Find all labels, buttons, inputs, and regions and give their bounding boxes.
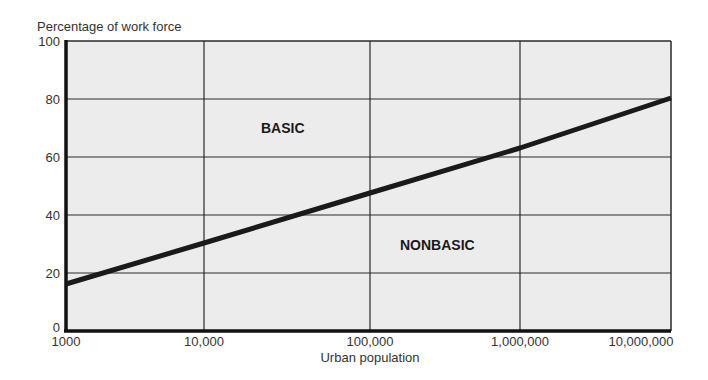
x-tick-100000: 100,000 bbox=[347, 334, 394, 349]
basic-label: BASIC bbox=[261, 120, 305, 136]
y-tick-20: 20 bbox=[30, 266, 60, 281]
plot-area bbox=[0, 0, 708, 380]
x-tick-10000000: 10,000,000 bbox=[608, 334, 673, 349]
y-tick-60: 60 bbox=[30, 150, 60, 165]
plot-background bbox=[66, 41, 671, 331]
x-axis-title: Urban population bbox=[320, 350, 419, 365]
y-tick-80: 80 bbox=[30, 92, 60, 107]
x-tick-10000: 10,000 bbox=[184, 334, 224, 349]
nonbasic-label: NONBASIC bbox=[400, 237, 475, 253]
x-tick-1000: 1000 bbox=[52, 334, 81, 349]
x-tick-1000000: 1,000,000 bbox=[491, 334, 549, 349]
y-tick-40: 40 bbox=[30, 208, 60, 223]
y-tick-0: 0 bbox=[30, 320, 60, 335]
y-tick-100: 100 bbox=[30, 34, 60, 49]
